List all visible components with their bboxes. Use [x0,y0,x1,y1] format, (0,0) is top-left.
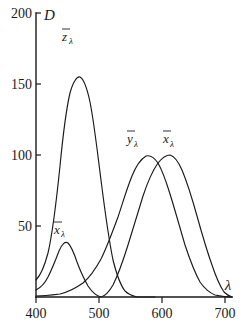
curve-label-z-bar: z λ [61,29,73,46]
curve-label-y-base: y [125,131,133,146]
curve-label-x-sub: λ [169,139,174,149]
y-tick-label-200: 200 [11,6,32,21]
curve-label-x-small-base: x [53,222,60,237]
y-tick-label-150: 150 [11,77,32,92]
x-tick-label-700: 700 [215,306,236,321]
x-tick-labels: 400 500 600 700 [26,306,236,321]
curve-label-x-small-sub: λ [60,229,65,239]
y-tick-labels: 200 150 100 50 [11,6,32,234]
curve-label-x-base: x [162,131,169,146]
color-matching-functions-chart: 200 150 100 50 400 500 600 700 D λ z λ [0,0,247,323]
y-tick-label-100: 100 [11,148,32,163]
curve-label-z-base: z [61,29,67,44]
curve-label-y-sub: λ [133,139,138,149]
x-tick-label-600: 600 [152,306,173,321]
curve-label-z-sub: λ [68,36,73,46]
curve-label-y-bar: y λ [125,131,138,149]
y-axis-label: D [43,7,55,23]
y-tick-label-50: 50 [18,219,32,234]
x-tick-label-400: 400 [26,306,47,321]
curve-label-x-bar-primary: x λ [162,131,174,149]
chart-container: 200 150 100 50 400 500 600 700 D λ z λ [0,0,247,323]
curve-label-x-bar-secondary: x λ [53,222,65,239]
axes-group [36,13,232,303]
x-axis-label: λ [224,277,232,293]
x-tick-label-500: 500 [89,306,110,321]
curve-x-bar [36,155,232,297]
